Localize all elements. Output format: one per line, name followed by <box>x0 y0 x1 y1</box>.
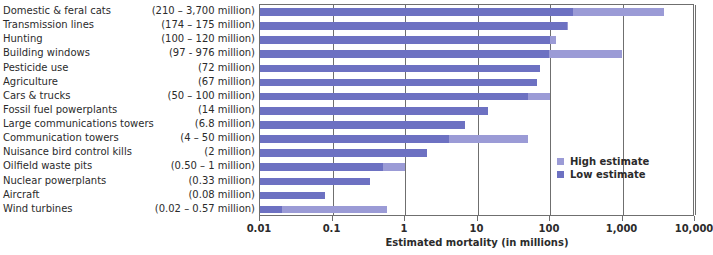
bar-row <box>260 76 695 90</box>
bar-row <box>260 19 695 33</box>
category-label-row: Large communications towers(6.8 million) <box>0 117 256 131</box>
category-label-row: Nuclear powerplants(0.33 million) <box>0 174 256 188</box>
bar-row <box>260 33 695 47</box>
x-gridline <box>695 5 696 215</box>
category-label-row: Building windows(97 - 976 million) <box>0 46 256 60</box>
category-name: Nuisance bird control kills <box>3 145 132 159</box>
x-axis-tick <box>477 216 478 221</box>
chart-legend: High estimateLow estimate <box>557 155 649 181</box>
bar-row <box>260 5 695 19</box>
x-axis-tick-label: 1,000 <box>606 223 638 234</box>
category-label-row: Agriculture(67 million) <box>0 75 256 89</box>
category-value-label: (67 million) <box>198 75 255 89</box>
legend-label: Low estimate <box>570 169 646 180</box>
category-name: Transmission lines <box>3 18 94 32</box>
x-axis-tick <box>259 216 260 221</box>
category-name: Domestic & feral cats <box>3 4 111 18</box>
category-label-row: Cars & trucks(50 – 100 million) <box>0 89 256 103</box>
bar-row <box>260 62 695 76</box>
bar-low-estimate <box>260 149 427 157</box>
category-value-label: (2 million) <box>204 145 255 159</box>
bar-low-estimate <box>260 65 540 73</box>
plot-area <box>259 4 694 216</box>
category-name: Building windows <box>3 46 90 60</box>
x-axis-tick <box>549 216 550 221</box>
bar-row <box>260 118 695 132</box>
category-value-label: (14 million) <box>198 103 255 117</box>
bar-low-estimate <box>260 50 549 58</box>
x-axis-tick <box>404 216 405 221</box>
category-name: Hunting <box>3 32 43 46</box>
bar-row <box>260 104 695 118</box>
bar-low-estimate <box>260 93 528 101</box>
category-value-label: (4 – 50 million) <box>180 131 255 145</box>
category-label-row: Fossil fuel powerplants(14 million) <box>0 103 256 117</box>
x-axis-tick <box>622 216 623 221</box>
category-value-label: (100 – 120 million) <box>161 32 255 46</box>
category-label-row: Aircraft(0.08 million) <box>0 188 256 202</box>
category-label-column: Domestic & feral cats(210 – 3,700 millio… <box>0 0 256 216</box>
category-name: Large communications towers <box>3 117 154 131</box>
bar-row <box>260 132 695 146</box>
x-axis-tick-label: 1 <box>401 223 408 234</box>
category-value-label: (0.50 – 1 million) <box>171 159 255 173</box>
category-label-row: Oilfield waste pits(0.50 – 1 million) <box>0 159 256 173</box>
bar-row <box>260 47 695 61</box>
category-name: Fossil fuel powerplants <box>3 103 117 117</box>
x-axis-tick <box>694 216 695 221</box>
bar-low-estimate <box>260 107 488 115</box>
bar-low-estimate <box>260 22 567 30</box>
bar-low-estimate <box>260 36 550 44</box>
bar-low-estimate <box>260 192 325 200</box>
category-label-row: Wind turbines(0.02 – 0.57 million) <box>0 202 256 216</box>
category-name: Agriculture <box>3 75 58 89</box>
category-value-label: (0.33 million) <box>188 174 255 188</box>
category-label-row: Domestic & feral cats(210 – 3,700 millio… <box>0 4 256 18</box>
legend-item-low[interactable]: Low estimate <box>557 168 649 181</box>
x-axis-tick <box>332 216 333 221</box>
x-axis-tick-label: 100 <box>539 223 560 234</box>
category-value-label: (50 – 100 million) <box>168 89 255 103</box>
legend-swatch-icon <box>557 158 564 165</box>
bar-row <box>260 189 695 203</box>
category-name: Nuclear powerplants <box>3 174 106 188</box>
category-name: Cars & trucks <box>3 89 70 103</box>
legend-item-high[interactable]: High estimate <box>557 155 649 168</box>
category-label-row: Nuisance bird control kills(2 million) <box>0 145 256 159</box>
bar-low-estimate <box>260 206 282 214</box>
category-value-label: (210 – 3,700 million) <box>152 4 255 18</box>
bar-low-estimate <box>260 121 465 129</box>
bar-low-estimate <box>260 163 383 171</box>
x-axis-tick-label: 10 <box>470 223 484 234</box>
x-axis-tick-label: 10,000 <box>675 223 713 234</box>
x-axis-tick-labels: 0.010.11101001,00010,000 <box>0 223 713 237</box>
category-label-row: Pesticide use(72 million) <box>0 61 256 75</box>
x-axis-tick-label: 0.1 <box>323 223 341 234</box>
category-label-row: Communication towers(4 – 50 million) <box>0 131 256 145</box>
legend-swatch-icon <box>557 171 564 178</box>
bar-row <box>260 90 695 104</box>
category-value-label: (0.08 million) <box>188 188 255 202</box>
category-value-label: (174 – 175 million) <box>161 18 255 32</box>
x-axis-tick-marks <box>259 216 695 223</box>
category-name: Communication towers <box>3 131 119 145</box>
category-name: Oilfield waste pits <box>3 159 92 173</box>
bar-low-estimate <box>260 8 573 16</box>
category-value-label: (0.02 – 0.57 million) <box>155 202 255 216</box>
bird-mortality-chart: Domestic & feral cats(210 – 3,700 millio… <box>0 0 713 255</box>
category-name: Pesticide use <box>3 61 68 75</box>
bar-row <box>260 203 695 217</box>
x-axis-tick-label: 0.01 <box>247 223 272 234</box>
bar-low-estimate <box>260 79 537 87</box>
x-axis-title: Estimated mortality (in millions) <box>259 237 695 248</box>
legend-label: High estimate <box>570 156 649 167</box>
category-value-label: (97 - 976 million) <box>169 46 255 60</box>
category-value-label: (6.8 million) <box>195 117 255 131</box>
category-label-row: Hunting(100 – 120 million) <box>0 32 256 46</box>
category-name: Aircraft <box>3 188 40 202</box>
category-label-row: Transmission lines(174 – 175 million) <box>0 18 256 32</box>
category-name: Wind turbines <box>3 202 73 216</box>
bar-low-estimate <box>260 178 370 186</box>
category-value-label: (72 million) <box>198 61 255 75</box>
bar-low-estimate <box>260 135 449 143</box>
